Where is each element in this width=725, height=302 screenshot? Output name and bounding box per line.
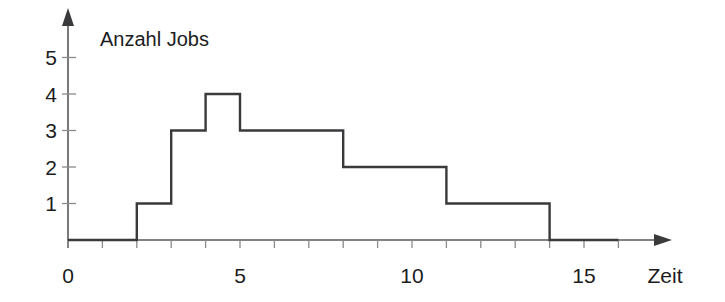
y-tick-label-4: 4 (45, 83, 57, 106)
y-tick-label-3: 3 (45, 119, 57, 142)
x-axis-title: Zeit (647, 264, 682, 287)
x-axis-arrow-icon (654, 234, 672, 246)
y-tick-label-5: 5 (45, 46, 57, 69)
y-tick-label-1: 1 (45, 192, 57, 215)
y-axis-arrow-icon (62, 8, 74, 26)
y-axis-ticks (62, 58, 76, 204)
x-tick-label-5: 5 (234, 264, 246, 287)
x-tick-label-15: 15 (572, 264, 595, 287)
step-function-line (68, 94, 618, 240)
y-tick-label-2: 2 (45, 156, 57, 179)
x-tick-label-0: 0 (62, 264, 74, 287)
chart-page: 5 4 3 2 1 0 5 10 15 Zeit Anzahl Jobs (0, 0, 725, 302)
step-chart: 5 4 3 2 1 0 5 10 15 Zeit Anzahl Jobs (0, 0, 725, 302)
x-axis-ticks (68, 240, 618, 248)
x-tick-label-10: 10 (400, 264, 423, 287)
series-label: Anzahl Jobs (100, 28, 209, 50)
